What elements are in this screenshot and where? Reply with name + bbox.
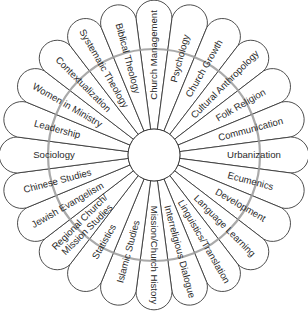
petal-label: Sociology — [33, 149, 75, 160]
petal-label: Urbanization — [227, 149, 281, 160]
petal-label: Mission/Church History — [149, 206, 160, 305]
petal-wheel-diagram: Church ManagementPsychologyChurch Growth… — [0, 0, 308, 312]
center-hub — [128, 129, 180, 181]
petal-label: Church Management — [148, 10, 159, 100]
